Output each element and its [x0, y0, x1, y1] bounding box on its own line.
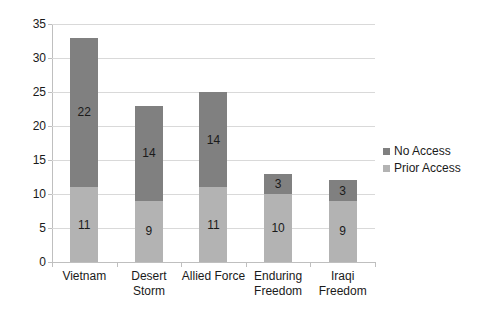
- y-tick-label-15: 15: [2, 154, 46, 166]
- y-tick-label-5: 5: [2, 222, 46, 234]
- bar-segment-no-access[interactable]: 22: [70, 38, 98, 188]
- legend-item[interactable]: No Access: [383, 143, 479, 159]
- bar-stack[interactable]: 1411: [199, 92, 227, 262]
- y-tickmark-25: [48, 92, 52, 93]
- bar-segment-prior-access[interactable]: 11: [70, 187, 98, 262]
- bar-value-label: 14: [135, 147, 163, 159]
- plot-area: 2211149141131039: [52, 24, 375, 262]
- bar-segment-no-access[interactable]: 3: [264, 174, 292, 194]
- bar-stack[interactable]: 149: [135, 106, 163, 262]
- legend-label: Prior Access: [394, 162, 461, 175]
- x-axis-tick-marks: [52, 262, 375, 267]
- x-axis-label-line: Freedom: [304, 284, 381, 299]
- x-axis-label-line: Iraqi: [304, 269, 381, 284]
- bar-value-label: 9: [135, 225, 163, 237]
- bar-value-label: 22: [70, 106, 98, 118]
- y-tickmark-15: [48, 160, 52, 161]
- y-tickmark-30: [48, 58, 52, 59]
- x-axis-category-labels: VietnamDesertStormAllied ForceEnduringFr…: [52, 269, 375, 309]
- y-axis-tick-labels: 35302520151050: [0, 24, 46, 262]
- legend-swatch-icon: [383, 165, 390, 172]
- bar-value-label: 11: [70, 219, 98, 231]
- bar-slot: 1411: [181, 24, 246, 262]
- bar-segment-prior-access[interactable]: 9: [329, 201, 357, 262]
- bar-segment-no-access[interactable]: 14: [199, 92, 227, 187]
- y-tick-label-20: 20: [2, 120, 46, 132]
- chart-legend: No AccessPrior Access: [383, 143, 479, 177]
- legend-swatch-icon: [383, 148, 390, 155]
- y-tickmark-10: [48, 194, 52, 195]
- bar-slot: 149: [117, 24, 182, 262]
- y-tickmark-5: [48, 228, 52, 229]
- stacked-bar-chart: 35302520151050 2211149141131039 VietnamD…: [0, 0, 483, 313]
- y-tick-label-30: 30: [2, 52, 46, 64]
- bar-segment-prior-access[interactable]: 10: [264, 194, 292, 262]
- bar-segment-prior-access[interactable]: 11: [199, 187, 227, 262]
- y-tickmark-35: [48, 24, 52, 25]
- bar-value-label: 3: [329, 185, 357, 197]
- bar-segment-no-access[interactable]: 3: [329, 180, 357, 200]
- bar-value-label: 3: [264, 178, 292, 190]
- x-tickmark: [52, 262, 53, 267]
- bar-segment-prior-access[interactable]: 9: [135, 201, 163, 262]
- bar-slot: 39: [310, 24, 375, 262]
- y-tick-label-0: 0: [2, 256, 46, 268]
- bar-stack[interactable]: 2211: [70, 38, 98, 262]
- bar-slot: 310: [246, 24, 311, 262]
- x-tickmark: [375, 262, 376, 267]
- bar-value-label: 14: [199, 134, 227, 146]
- legend-item[interactable]: Prior Access: [383, 160, 479, 176]
- x-tickmark: [310, 262, 311, 267]
- bar-stack[interactable]: 310: [264, 174, 292, 262]
- bar-value-label: 9: [329, 225, 357, 237]
- bar-segment-no-access[interactable]: 14: [135, 106, 163, 201]
- y-tick-label-35: 35: [2, 18, 46, 30]
- x-axis-label-line: Storm: [111, 284, 188, 299]
- x-tickmark: [181, 262, 182, 267]
- y-tick-label-10: 10: [2, 188, 46, 200]
- bar-value-label: 10: [264, 222, 292, 234]
- x-tickmark: [246, 262, 247, 267]
- bar-slot: 2211: [52, 24, 117, 262]
- legend-label: No Access: [394, 145, 451, 158]
- y-tick-label-25: 25: [2, 86, 46, 98]
- bar-stack[interactable]: 39: [329, 180, 357, 262]
- bar-value-label: 11: [199, 219, 227, 231]
- y-tickmark-0: [48, 262, 52, 263]
- x-axis-label-iraqi-freedom: IraqiFreedom: [304, 269, 381, 299]
- y-tickmark-20: [48, 126, 52, 127]
- x-tickmark: [117, 262, 118, 267]
